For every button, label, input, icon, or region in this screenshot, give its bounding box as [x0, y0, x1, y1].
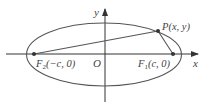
- point-p-coords: (x, y): [168, 21, 190, 33]
- segment-f2-p: [34, 31, 158, 54]
- focus-f2-point: [32, 52, 36, 56]
- ellipse-diagram-canvas: y x O P(x, y) F2(−c, 0) F1(c, 0): [0, 0, 212, 106]
- focus-f2-label: F2(−c, 0): [35, 58, 76, 71]
- focus-f1-coords: (c, 0): [148, 58, 171, 70]
- x-axis-label: x: [192, 57, 198, 69]
- segment-p-f1: [158, 31, 173, 54]
- point-p: [156, 29, 160, 33]
- y-axis-label: y: [93, 6, 99, 18]
- ellipse-diagram: y x O P(x, y) F2(−c, 0) F1(c, 0): [0, 0, 212, 106]
- origin-label: O: [93, 57, 101, 69]
- focus-f1-label: F1(c, 0): [137, 58, 171, 71]
- focus-f2-coords: (−c, 0): [46, 58, 76, 70]
- focus-f1-point: [171, 52, 175, 56]
- point-p-label: P(x, y): [161, 21, 190, 33]
